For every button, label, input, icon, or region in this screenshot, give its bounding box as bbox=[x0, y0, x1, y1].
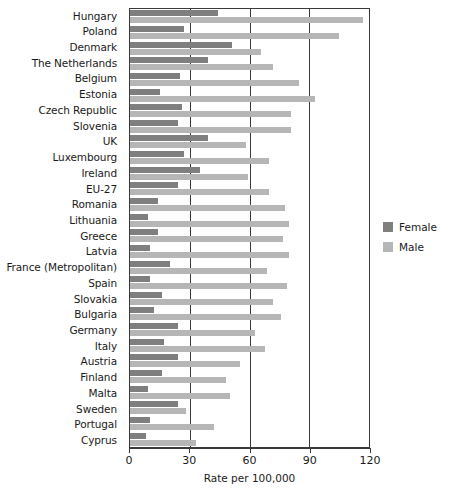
category-axis: HungaryPolandDenmarkThe NetherlandsBelgi… bbox=[0, 8, 122, 448]
bar-group bbox=[130, 228, 369, 244]
bar-group bbox=[130, 9, 369, 25]
category-label: Slovenia bbox=[0, 118, 122, 134]
category-label: Denmark bbox=[0, 39, 122, 55]
bar-male bbox=[130, 127, 291, 133]
category-label: Bulgaria bbox=[0, 307, 122, 323]
bars-layer bbox=[130, 9, 369, 447]
bar-female bbox=[130, 10, 218, 16]
category-label: Hungary bbox=[0, 8, 122, 24]
bar-female bbox=[130, 104, 182, 110]
bar-male bbox=[130, 174, 248, 180]
x-tick-label: 120 bbox=[360, 455, 381, 466]
bar-male bbox=[130, 393, 230, 399]
bar-female bbox=[130, 120, 178, 126]
category-label: Luxembourg bbox=[0, 149, 122, 165]
category-label: Cyprus bbox=[0, 432, 122, 448]
bar-group bbox=[130, 25, 369, 41]
bar-group bbox=[130, 56, 369, 72]
bar-male bbox=[130, 189, 269, 195]
bar-group bbox=[130, 40, 369, 56]
category-label: Belgium bbox=[0, 71, 122, 87]
bar-female bbox=[130, 323, 178, 329]
bar-male bbox=[130, 314, 281, 320]
bar-female bbox=[130, 26, 184, 32]
bar-group bbox=[130, 369, 369, 385]
bar-male bbox=[130, 299, 273, 305]
bar-male bbox=[130, 17, 363, 23]
bar-female bbox=[130, 229, 158, 235]
bar-group bbox=[130, 72, 369, 88]
bar-group bbox=[130, 259, 369, 275]
bar-male bbox=[130, 408, 186, 414]
bar-group bbox=[130, 103, 369, 119]
category-label: Ireland bbox=[0, 165, 122, 181]
bar-group bbox=[130, 431, 369, 447]
bar-chart: HungaryPolandDenmarkThe NetherlandsBelgi… bbox=[0, 0, 458, 499]
legend-swatch-icon bbox=[383, 242, 393, 252]
category-label: Greece bbox=[0, 228, 122, 244]
bar-female bbox=[130, 57, 208, 63]
bar-female bbox=[130, 307, 154, 313]
bar-female bbox=[130, 261, 170, 267]
category-label: Sweden bbox=[0, 401, 122, 417]
bar-female bbox=[130, 182, 178, 188]
bar-group bbox=[130, 400, 369, 416]
bar-group bbox=[130, 291, 369, 307]
bar-male bbox=[130, 283, 287, 289]
bar-female bbox=[130, 370, 162, 376]
x-tick-label: 60 bbox=[243, 455, 257, 466]
bar-female bbox=[130, 354, 178, 360]
category-label: Finland bbox=[0, 370, 122, 386]
category-label: Italy bbox=[0, 338, 122, 354]
bar-female bbox=[130, 339, 164, 345]
bar-female bbox=[130, 198, 158, 204]
bar-male bbox=[130, 80, 299, 86]
bar-male bbox=[130, 346, 265, 352]
x-tick-label: 30 bbox=[182, 455, 196, 466]
bar-male bbox=[130, 111, 291, 117]
bar-male bbox=[130, 236, 283, 242]
legend-item[interactable]: Female bbox=[383, 222, 453, 233]
x-tick bbox=[310, 448, 311, 453]
bar-male bbox=[130, 424, 214, 430]
bar-female bbox=[130, 417, 150, 423]
bar-group bbox=[130, 322, 369, 338]
bar-female bbox=[130, 135, 208, 141]
bar-group bbox=[130, 150, 369, 166]
category-label: Austria bbox=[0, 354, 122, 370]
bar-group bbox=[130, 197, 369, 213]
bar-female bbox=[130, 214, 148, 220]
bar-male bbox=[130, 33, 339, 39]
bar-group bbox=[130, 416, 369, 432]
x-axis-title: Rate per 100,000 bbox=[129, 472, 370, 484]
bar-group bbox=[130, 337, 369, 353]
category-label: Poland bbox=[0, 24, 122, 40]
category-label: The Netherlands bbox=[0, 55, 122, 71]
bar-male bbox=[130, 96, 315, 102]
bar-group bbox=[130, 384, 369, 400]
bar-male bbox=[130, 440, 196, 446]
bar-group bbox=[130, 134, 369, 150]
bar-group bbox=[130, 181, 369, 197]
bar-group bbox=[130, 165, 369, 181]
bar-male bbox=[130, 268, 267, 274]
bar-male bbox=[130, 221, 289, 227]
x-tick-label: 90 bbox=[303, 455, 317, 466]
category-label: Malta bbox=[0, 385, 122, 401]
x-tick bbox=[250, 448, 251, 453]
x-tick bbox=[129, 448, 130, 453]
bar-group bbox=[130, 87, 369, 103]
bar-female bbox=[130, 73, 180, 79]
category-label: Romania bbox=[0, 197, 122, 213]
bar-female bbox=[130, 433, 146, 439]
bar-group bbox=[130, 118, 369, 134]
legend-label: Male bbox=[399, 242, 424, 253]
category-label: Slovakia bbox=[0, 291, 122, 307]
category-label: Spain bbox=[0, 275, 122, 291]
legend-label: Female bbox=[399, 222, 437, 233]
category-label: France (Metropolitan) bbox=[0, 260, 122, 276]
x-axis: Rate per 100,000 0306090120 bbox=[129, 448, 370, 488]
legend-item[interactable]: Male bbox=[383, 242, 453, 253]
bar-group bbox=[130, 244, 369, 260]
bar-female bbox=[130, 167, 200, 173]
